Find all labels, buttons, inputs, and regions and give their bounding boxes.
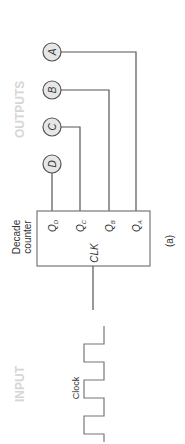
figure-caption: (a) — [164, 235, 175, 247]
indicator-c: C — [43, 118, 61, 136]
pin-qa-sub: A — [137, 220, 143, 225]
indicator-b: B — [43, 81, 61, 99]
counter-title-line1: Decade — [11, 219, 22, 254]
indicator-a-label: A — [47, 48, 58, 56]
decade-counter-diagram: OUTPUTS INPUT A B C D Decade counter QD … — [0, 0, 185, 444]
indicator-d: D — [43, 155, 61, 173]
wire-qa — [61, 52, 136, 211]
clock-waveform — [84, 326, 104, 442]
wire-qb — [61, 90, 109, 211]
clock-label: Clock — [71, 376, 81, 399]
input-section-label: INPUT — [13, 365, 27, 402]
counter-title-line2: counter — [22, 220, 33, 254]
wire-qc — [61, 127, 80, 211]
indicator-a: A — [43, 43, 61, 61]
clk-pin-label: CLK — [89, 242, 100, 263]
pin-qd-sub: D — [53, 219, 59, 224]
pin-qc-sub: C — [81, 219, 87, 224]
pin-qb-sub: B — [110, 220, 116, 224]
indicator-c-label: C — [47, 123, 58, 131]
outputs-section-label: OUTPUTS — [13, 81, 27, 138]
indicator-b-label: B — [47, 86, 58, 93]
indicator-d-label: D — [47, 160, 58, 167]
